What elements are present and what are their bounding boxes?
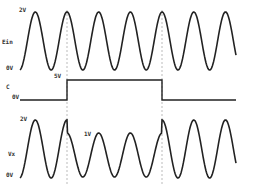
ein-signal-label: Ein [2, 38, 13, 45]
ein-min-label: 0V [6, 64, 13, 71]
vx-max-label: 2V [20, 115, 27, 122]
timing-diagram [0, 0, 273, 184]
vx-mid-label: 1V [84, 130, 91, 137]
vx-min-label: 0V [6, 171, 13, 178]
ein-max-label: 2V [19, 6, 26, 13]
c-waveform [20, 80, 236, 100]
ein-waveform [20, 12, 236, 70]
vx-waveform [20, 120, 236, 178]
c-signal-label: C [6, 83, 10, 90]
vx-signal-label: Vx [8, 150, 15, 157]
c-low-label: 0V [12, 93, 19, 100]
c-high-label: 5V [54, 72, 61, 79]
